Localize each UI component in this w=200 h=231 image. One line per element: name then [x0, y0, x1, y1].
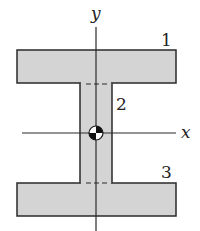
i-beam-diagram: y x 1 2 3: [0, 0, 200, 231]
part-label-2: 2: [116, 94, 127, 114]
part-label-1: 1: [161, 30, 172, 50]
y-axis-label: y: [90, 3, 101, 23]
x-axis-label: x: [181, 122, 191, 142]
part-label-3: 3: [161, 162, 172, 182]
centroid-icon: [89, 126, 103, 140]
